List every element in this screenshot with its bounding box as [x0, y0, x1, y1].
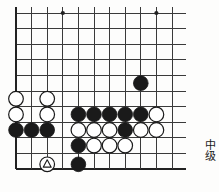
black-stone — [118, 107, 133, 122]
go-board — [0, 0, 219, 192]
star-point — [61, 11, 65, 15]
white-stone — [40, 91, 55, 106]
white-stone — [40, 157, 55, 172]
black-stone — [118, 123, 133, 138]
black-stone — [102, 107, 117, 122]
white-stone — [118, 138, 133, 153]
black-stone — [9, 123, 24, 138]
rank-label: 中级 — [199, 139, 215, 161]
black-stone — [24, 123, 39, 138]
go-problem-diagram: 中级 — [0, 0, 219, 192]
black-stone — [40, 123, 55, 138]
white-stone — [149, 107, 164, 122]
black-stone — [133, 107, 148, 122]
white-stone — [102, 138, 117, 153]
white-stone — [133, 123, 148, 138]
white-stone — [71, 123, 86, 138]
white-stone — [87, 123, 102, 138]
black-stone — [133, 76, 148, 91]
white-stone — [9, 91, 24, 106]
white-stone — [9, 107, 24, 122]
black-stone — [87, 107, 102, 122]
white-stone — [102, 123, 117, 138]
go-board-canvas — [0, 0, 219, 192]
white-stone — [149, 123, 164, 138]
black-stone — [71, 138, 86, 153]
white-stone — [40, 107, 55, 122]
star-point — [154, 11, 158, 15]
white-stone — [87, 138, 102, 153]
black-stone — [71, 107, 86, 122]
black-stone — [71, 157, 86, 172]
